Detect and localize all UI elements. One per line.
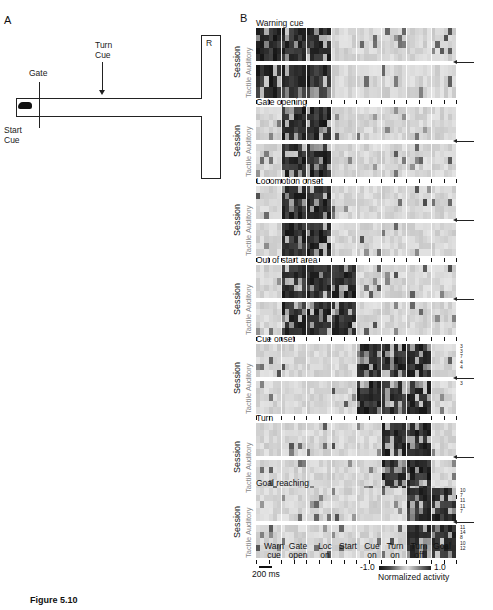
modality-label: Tactile Auditory [244, 285, 253, 335]
modality-label: Tactile Auditory [244, 443, 253, 493]
colorbar-label: Normalized activity [378, 572, 449, 582]
auditory-heatmap [256, 423, 456, 456]
heatmap-title: Gate opening [256, 97, 307, 107]
separator-arrow-icon [456, 220, 474, 221]
scale-bar-label: 200 ms [252, 569, 280, 579]
rat-icon [18, 102, 32, 109]
separator-arrow-icon [456, 299, 474, 300]
separator-arrow-icon [456, 62, 474, 63]
session-axis-label: Session [232, 362, 242, 394]
tactile-heatmap [256, 223, 456, 256]
auditory-heatmap [256, 28, 456, 61]
auditory-heatmap [256, 186, 456, 219]
heatmap-title: Locomotion onset [256, 176, 323, 186]
auditory-heatmap [256, 265, 456, 298]
separator-arrow-icon [456, 141, 474, 142]
gate-label: Gate [29, 68, 47, 78]
heatmap-title: Cue onset [256, 334, 295, 344]
session-axis-label: Session [232, 204, 242, 236]
colorbar [379, 566, 431, 570]
xtick-goal: Goal [427, 542, 457, 551]
panel-b-letter: B [240, 12, 247, 24]
session-numbers: 10 7 11 11 7 [460, 488, 466, 514]
heatmap-panel: Cue onset3 3 7 4 43 SessionTactile Audit… [256, 344, 456, 416]
modality-label: Tactile Auditory [244, 508, 253, 558]
colorbar-max: 1.0 [434, 562, 446, 572]
tactile-heatmap [256, 302, 456, 335]
session-numbers: 3 [460, 381, 463, 402]
tactile-heatmap [256, 65, 456, 98]
session-numbers: 11 14 8 10 12 [460, 525, 466, 551]
xtick-gate-open: Gate open [283, 542, 313, 560]
tactile-heatmap [256, 381, 456, 414]
figure-caption: Figure 5.10 [30, 595, 78, 605]
separator-arrow-icon [456, 522, 474, 523]
heatmap-title: Warning cue [256, 18, 303, 28]
heatmap-panel: Warning cueSessionTactile Auditory [256, 28, 456, 100]
session-axis-label: Session [232, 283, 242, 315]
turn-cue-label: Turn Cue [95, 40, 112, 60]
heatmap-panel: Locomotion onsetSessionTactile Auditory [256, 186, 456, 258]
tactile-heatmap [256, 144, 456, 177]
auditory-heatmap [256, 488, 456, 521]
modality-label: Tactile Auditory [244, 206, 253, 256]
start-cue-label: Start Cue [4, 125, 22, 145]
scale-bar [259, 566, 272, 568]
heatmap-panel: Gate openingSessionTactile Auditory [256, 107, 456, 179]
auditory-heatmap [256, 107, 456, 140]
turn-cue-arrow [102, 62, 103, 92]
heatmap-title: Turn [256, 413, 273, 423]
colorbar-min: -1.0 [360, 562, 375, 572]
session-axis-label: Session [232, 125, 242, 157]
session-axis-label: Session [232, 506, 242, 538]
separator-arrow-icon [456, 378, 474, 379]
auditory-heatmap [256, 344, 456, 377]
session-axis-label: Session [232, 46, 242, 78]
heatmap-title: Goal reaching [256, 478, 309, 488]
heatmap-title: Out of start area [256, 255, 317, 265]
modality-label: Tactile Auditory [244, 127, 253, 177]
heatmap-panel: Out of start areaSessionTactile Auditory [256, 265, 456, 337]
modality-label: Tactile Auditory [244, 364, 253, 414]
session-numbers: 3 3 7 4 4 [460, 344, 463, 370]
separator-arrow-icon [456, 457, 474, 458]
panel-a-letter: A [4, 14, 11, 26]
gate-line [39, 82, 40, 128]
modality-label: Tactile Auditory [244, 48, 253, 98]
session-axis-label: Session [232, 441, 242, 473]
reward-label: R [206, 38, 212, 48]
